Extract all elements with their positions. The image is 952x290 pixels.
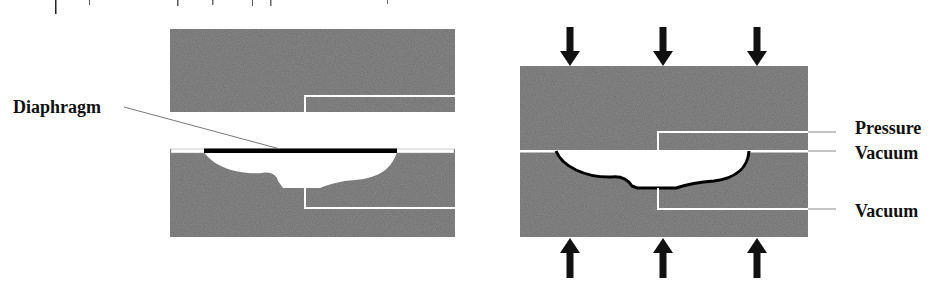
arrow-up-icon — [560, 238, 580, 278]
arrow-down-icon — [560, 27, 580, 66]
arrow-down-icon — [747, 27, 767, 66]
diaphragm-sheet — [204, 149, 397, 154]
diagram-canvas: Diaphragm Pressure Vacuum Vacuum — [0, 0, 952, 290]
arrow-up-icon — [653, 238, 673, 278]
cropped-caption-fragments — [55, 0, 388, 14]
diagram-svg: Diaphragm Pressure Vacuum Vacuum — [0, 0, 952, 290]
vacuum-lower-label: Vacuum — [855, 201, 918, 221]
arrow-up-icon — [747, 238, 767, 278]
diaphragm-leader-line — [124, 107, 280, 149]
left-panel-open-mold: Diaphragm — [13, 29, 455, 237]
arrow-down-icon — [653, 27, 673, 66]
press-force-arrows-top — [560, 27, 767, 66]
pressure-label: Pressure — [855, 118, 921, 138]
diaphragm-label: Diaphragm — [13, 97, 101, 117]
lower-mold-left — [170, 149, 455, 238]
upper-mold-left — [170, 29, 455, 112]
right-panel-closed-mold: Pressure Vacuum Vacuum — [520, 27, 921, 278]
vacuum-upper-label: Vacuum — [855, 143, 918, 163]
press-force-arrows-bottom — [560, 238, 767, 278]
